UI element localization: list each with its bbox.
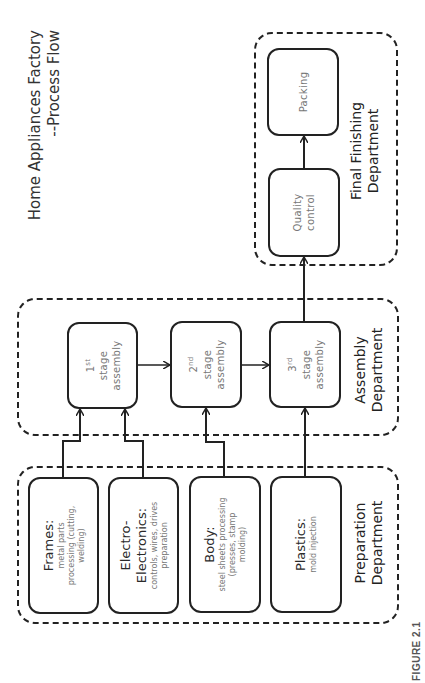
frames-node: Frames: metal parts processing (cutting,… xyxy=(28,477,99,614)
packing-label: Packing xyxy=(297,72,310,113)
process-flow-diagram: Home Appliances Factory --Process Flow Q… xyxy=(0,0,425,683)
stage3-assembly-node: 3rd stage assembly xyxy=(269,321,341,408)
stage1-assembly-node: 1st stage assembly xyxy=(67,322,138,409)
packing-node: Packing xyxy=(267,48,339,136)
quality-control-label: Quality control xyxy=(291,183,317,243)
assembly-department-label: Assembly Department xyxy=(352,315,386,425)
final-finishing-label: Final Finishing Department xyxy=(348,51,382,251)
quality-control-node: Quality control xyxy=(268,168,340,257)
figure-caption: FIGURE 2.1 xyxy=(411,622,422,681)
plastics-node: Plastics: mold injection xyxy=(270,476,342,613)
body-node: Body: steel sheets processing (presses, … xyxy=(189,476,261,613)
preparation-department-label: Preparation Department xyxy=(352,483,386,603)
stage2-assembly-node: 2nd stage assembly xyxy=(170,321,242,408)
electro-electronics-node: Electro-Electronics: controls, wires, dr… xyxy=(108,477,179,614)
